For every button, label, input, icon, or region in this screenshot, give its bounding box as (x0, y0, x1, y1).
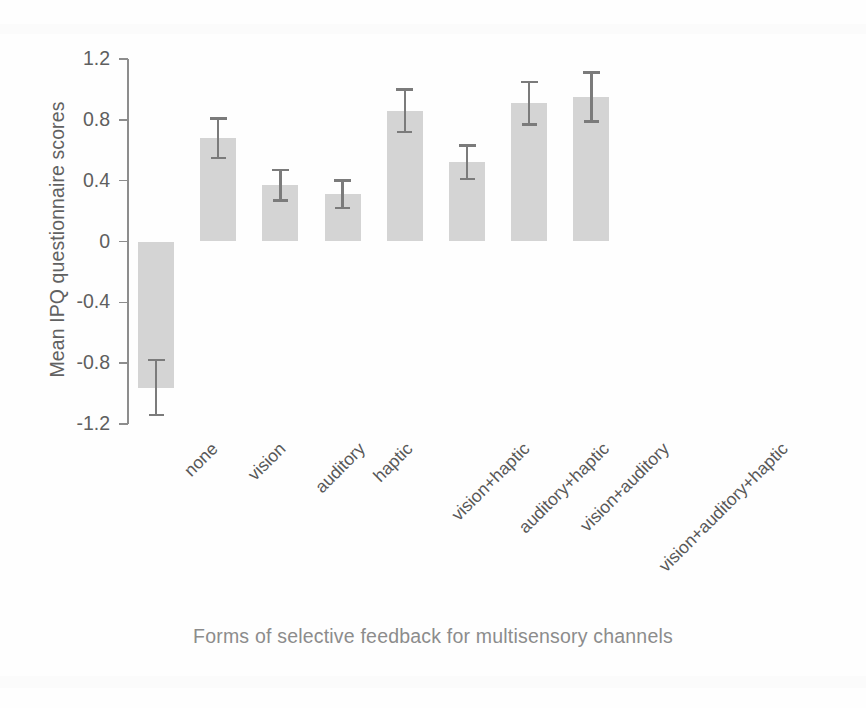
error-bar-cap-lower (584, 120, 599, 123)
error-bar-cap-upper (148, 359, 165, 362)
plot-area (129, 59, 849, 424)
x-axis-tick-label-haptic: haptic (370, 440, 415, 485)
y-axis-tick-label: 0.8 (52, 110, 110, 130)
error-bar-cap-lower (460, 178, 475, 181)
x-axis-tick-label-none: none (181, 440, 221, 480)
error-bar-cap-lower (273, 199, 288, 202)
y-axis-tick-label: -1.2 (52, 414, 110, 434)
y-axis-tick-label: -0.8 (52, 353, 110, 373)
error-bar-cap-upper (459, 144, 476, 147)
scan-artifact-top (0, 24, 866, 34)
y-axis-tick-mark (119, 423, 128, 425)
error-bar-cap-lower (522, 123, 537, 126)
error-bar-stem (155, 360, 157, 415)
error-bar-cap-upper (583, 71, 600, 74)
x-axis-tick-label-vision-haptic: vision+haptic (449, 440, 533, 524)
error-bar-stem (279, 170, 281, 200)
error-bar-stem (590, 73, 592, 122)
error-bar-cap-upper (396, 88, 413, 91)
error-bar-cap-lower (149, 414, 164, 417)
y-axis-tick-label: 0 (52, 232, 110, 252)
x-axis-tick-label-auditory: auditory (313, 440, 369, 496)
y-axis-tick-mark (119, 302, 128, 304)
y-axis-tick-label: 1.2 (52, 49, 110, 69)
error-bar-stem (528, 82, 530, 125)
error-bar-cap-lower (335, 207, 350, 210)
scan-artifact-bottom (0, 676, 866, 688)
error-bar-stem (341, 181, 343, 208)
y-axis-tick-mark (119, 58, 128, 60)
x-axis-tick-label-vision-auditory-haptic: vision+auditory+haptic (656, 440, 792, 576)
error-bar-cap-lower (397, 131, 412, 134)
error-bar-cap-upper (272, 169, 289, 172)
x-axis-tick-label-vision: vision (245, 440, 289, 484)
error-bar-cap-upper (334, 179, 351, 182)
error-bar-cap-lower (211, 157, 226, 160)
x-axis-title: Forms of selective feedback for multisen… (0, 625, 866, 648)
y-axis-tick-mark (119, 362, 128, 364)
error-bar-cap-upper (521, 81, 538, 84)
error-bar-stem (404, 89, 406, 132)
y-axis-tick-mark (119, 119, 128, 121)
error-bar-stem (217, 118, 219, 158)
bar-chart-figure: Mean IPQ questionnaire scores 1.20.80.40… (0, 0, 866, 708)
error-bar-cap-upper (210, 117, 227, 120)
y-axis-tick-label: -0.4 (52, 292, 110, 312)
y-axis-tick-mark (119, 241, 128, 243)
y-axis-tick-label: 0.4 (52, 171, 110, 191)
y-axis-tick-mark (119, 180, 128, 182)
error-bar-stem (466, 146, 468, 179)
